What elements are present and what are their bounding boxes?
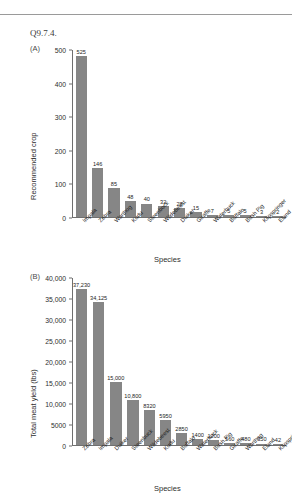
page-canvas: Q9.7.4. (A) (B) Recommended crop 0100200…	[0, 0, 292, 497]
bar-slot: 40	[139, 50, 155, 217]
bar-value-label: 525	[77, 50, 86, 56]
bar-slot: 15	[188, 50, 204, 217]
bar-slot: 15,000	[107, 278, 124, 445]
chart-b-y-tick-labels: 0500010,00015,00020,00025,00030,00035,00…	[36, 278, 68, 446]
y-tick-label: 40,000	[45, 275, 66, 282]
bar-slot: 7	[204, 50, 220, 217]
header-rule	[0, 14, 292, 15]
bar-slot: 560	[222, 278, 238, 445]
bar-slot: 42	[270, 278, 286, 445]
bar-value-label: 34,125	[90, 296, 107, 302]
bar	[110, 382, 122, 445]
bar-slot: 525	[73, 50, 89, 217]
bar-value-label: 146	[93, 162, 102, 168]
bar-slot: 37,230	[73, 278, 90, 445]
chart-a-plot-area: 52514685484032281575532	[72, 50, 286, 218]
bar	[76, 289, 88, 445]
y-tick-label: 15,000	[45, 380, 66, 387]
y-tick-label: 10,000	[45, 401, 66, 408]
y-tick-label: 20,000	[45, 359, 66, 366]
bar-slot: 48	[122, 50, 138, 217]
bar	[76, 56, 87, 217]
y-tick-label: 200	[55, 147, 66, 154]
chart-a-recommended-crop: Recommended crop 0100200300400500 525146…	[26, 50, 288, 265]
y-tick-label: 35,000	[45, 296, 66, 303]
y-tick-label: 5000	[51, 422, 66, 429]
y-tick-label: 0	[62, 443, 66, 450]
bar-value-label: 48	[127, 195, 133, 201]
bar-slot: 350	[254, 278, 270, 445]
bar-slot: 5950	[158, 278, 174, 445]
bar-slot: 32	[155, 50, 171, 217]
chart-a-x-axis-title: Species	[154, 255, 181, 264]
bar-slot: 480	[238, 278, 254, 445]
bar-slot: 85	[106, 50, 122, 217]
chart-a-bars: 52514685484032281575532	[73, 50, 286, 217]
bar-value-label: 85	[111, 182, 117, 188]
bar-slot: 2850	[174, 278, 190, 445]
chart-b-total-meat-yield: Total meat yield (lbs) 0500010,00015,000…	[26, 278, 288, 493]
chart-a-y-tick-labels: 0100200300400500	[36, 50, 68, 218]
bar-slot: 2	[270, 50, 286, 217]
bar-value-label: 2850	[175, 427, 187, 433]
chart-b-x-axis-title: Species	[154, 484, 181, 493]
bar-slot: 1400	[190, 278, 206, 445]
bar-value-label: 40	[144, 197, 150, 203]
bar-slot: 8320	[141, 278, 157, 445]
bar-value-label: 8320	[143, 404, 155, 410]
y-tick-label: 100	[55, 181, 66, 188]
chart-b-bars: 37,23034,12515,00010,8008320595028501400…	[73, 278, 286, 445]
bar-slot: 34,125	[90, 278, 107, 445]
question-number: Q9.7.4.	[30, 28, 57, 38]
bar-slot: 5	[237, 50, 253, 217]
y-tick-label: 300	[55, 114, 66, 121]
y-tick-label: 25,000	[45, 338, 66, 345]
bar-value-label: 15,000	[107, 376, 124, 382]
y-tick-label: 400	[55, 80, 66, 87]
bar-slot: 1200	[206, 278, 222, 445]
chart-b-plot-area: 37,23034,12515,00010,8008320595028501400…	[72, 278, 286, 446]
bar-slot: 28	[171, 50, 187, 217]
y-tick-label: 500	[55, 47, 66, 54]
chart-b-x-tick-labels: ZebraImpalaDuikerSteenbuckWildebeestKudu…	[73, 447, 286, 489]
bar-value-label: 5950	[159, 414, 171, 420]
bar-slot: 146	[89, 50, 105, 217]
bar-value-label: 37,230	[73, 283, 90, 289]
bar	[93, 302, 105, 445]
bar-slot: 5	[221, 50, 237, 217]
bar-slot: 3	[253, 50, 269, 217]
bar-value-label: 10,800	[124, 394, 141, 400]
y-tick-label: 30,000	[45, 317, 66, 324]
bar-slot: 10,800	[124, 278, 141, 445]
y-tick-label: 0	[62, 215, 66, 222]
